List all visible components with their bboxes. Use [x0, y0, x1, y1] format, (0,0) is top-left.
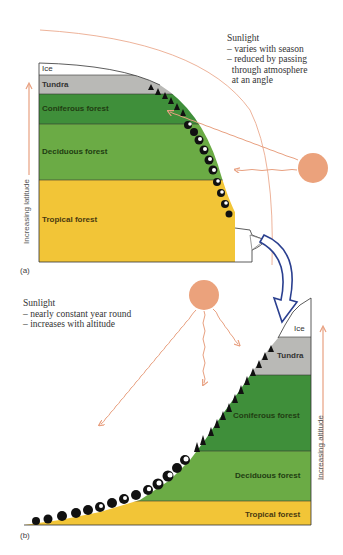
band-ice-a: Ice: [42, 64, 53, 73]
sun-b: [189, 280, 219, 310]
sunlight-title-b: Sunlight: [23, 298, 131, 309]
band-tundra-b: Tundra: [277, 351, 304, 360]
band-ice-b: Ice: [294, 324, 305, 333]
band-tropical-a: Tropical forest: [42, 215, 97, 224]
axis-label-latitude: Increasing latitude: [22, 179, 31, 244]
sunlight-note-b: Sunlight – nearly constant year round – …: [23, 298, 131, 330]
sun-a: [298, 153, 328, 183]
band-deciduous-a: Deciduous forest: [42, 147, 107, 156]
sunlight-line: – nearly constant year round: [23, 309, 131, 320]
sunlight-line: at an angle: [227, 75, 307, 86]
sunlight-line: – reduced by passing: [227, 54, 307, 65]
sunlight-line: – increases with altitude: [23, 319, 131, 330]
band-coniferous-a: Coniferous forest: [42, 104, 109, 113]
sunlight-line: through atmosphere: [227, 65, 307, 76]
band-tundra-a: Tundra: [42, 80, 69, 89]
sunlight-title-a: Sunlight: [227, 33, 307, 44]
sunlight-note-a: Sunlight – varies with season – reduced …: [227, 33, 307, 86]
panel-a-bands: [39, 60, 265, 262]
sunlight-line: – varies with season: [227, 44, 307, 55]
transition-arrow: [260, 235, 297, 322]
axis-label-altitude: Increasing altitude: [316, 415, 325, 480]
panel-label-b: (b): [20, 531, 30, 540]
band-tropical-b: Tropical forest: [245, 510, 300, 519]
band-deciduous-b: Deciduous forest: [235, 471, 300, 480]
panel-label-a: (a): [20, 266, 30, 275]
band-coniferous-b: Coniferous forest: [233, 411, 300, 420]
